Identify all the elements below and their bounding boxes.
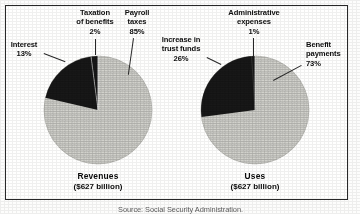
uses-caption-amount: ($627 billion)	[205, 182, 305, 191]
social-security-pie-figure: Taxation of benefits 2% Payroll taxes 85…	[0, 0, 360, 214]
label-admin-line2: expenses	[208, 17, 300, 26]
label-administrative-expenses: Administrative expenses 1%	[208, 8, 300, 36]
label-increase-value: 26%	[150, 54, 212, 63]
label-admin-value: 1%	[208, 27, 300, 36]
label-benefit-value: 73%	[306, 59, 356, 68]
label-benefit-line2: payments	[306, 49, 356, 58]
label-increase-line2: trust funds	[150, 44, 212, 53]
label-increase-line1: Increase in	[150, 35, 212, 44]
label-admin-line1: Administrative	[208, 8, 300, 17]
label-benefit-line1: Benefit	[306, 40, 356, 49]
uses-caption-title: Uses	[205, 171, 305, 181]
label-increase-in-trust-funds: Increase in trust funds 26%	[150, 35, 212, 63]
label-benefit-payments: Benefit payments 73%	[306, 40, 356, 68]
uses-caption: Uses ($627 billion)	[205, 171, 305, 191]
leader-administrative	[253, 38, 254, 56]
uses-pie-graphic	[0, 0, 360, 214]
source-note: Source: Social Security Administration.	[118, 205, 243, 214]
